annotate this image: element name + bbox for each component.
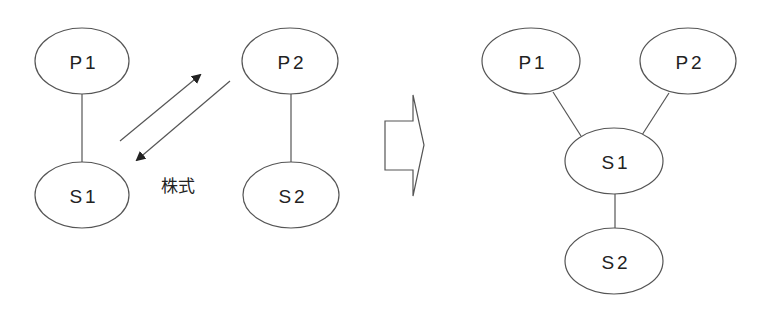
node-p1-label: P1 [69, 52, 98, 73]
node-s2-after-label: S2 [601, 252, 630, 273]
arrow-up-right-icon [120, 75, 200, 141]
arrow-down-left-icon [137, 81, 230, 160]
exchange-label: 株式 [161, 176, 195, 196]
node-p2-after-label: P2 [675, 52, 704, 73]
node-s2-after: S2 [565, 228, 663, 294]
node-s1-after: S1 [565, 128, 663, 194]
node-p1-after: P1 [482, 28, 580, 94]
node-s1-label: S1 [69, 186, 98, 207]
after-panel: P1 P2 S1 S2 [482, 28, 736, 294]
node-s1: S1 [35, 162, 129, 228]
transition-arrow-icon [385, 95, 424, 196]
node-p2-label: P2 [277, 52, 306, 73]
before-panel: P1 S1 P2 S2 株式 [35, 28, 339, 228]
node-p2: P2 [242, 28, 338, 94]
edge-p1-s1-after [553, 92, 581, 136]
diagram-canvas: P1 S1 P2 S2 株式 P1 P2 [0, 0, 761, 309]
node-s2-label: S2 [278, 186, 307, 207]
edge-p2-s1-after [642, 93, 669, 135]
node-p1-after-label: P1 [518, 52, 547, 73]
node-s2: S2 [243, 162, 339, 228]
node-p1: P1 [35, 28, 129, 94]
node-s1-after-label: S1 [601, 152, 630, 173]
node-p2-after: P2 [640, 28, 736, 94]
